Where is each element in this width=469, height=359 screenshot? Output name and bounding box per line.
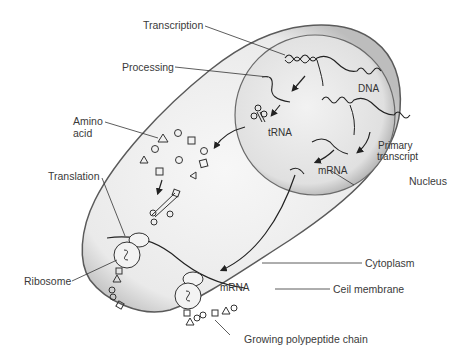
- label-cell-membrane: Ceil membrane: [333, 283, 404, 295]
- label-primary-transcript-line2: transcript: [377, 151, 418, 163]
- label-amino-acid-line1: Amino: [73, 115, 103, 127]
- label-transcription: Transcription: [143, 19, 203, 31]
- label-growing-polypeptide-chain: Growing polypeptide chain: [244, 333, 368, 345]
- label-cytoplasm: Cytoplasm: [365, 257, 415, 269]
- label-ribosome: Ribosome: [24, 275, 71, 287]
- label-mrna-cytoplasm: mRNA: [220, 282, 249, 294]
- label-dna: DNA: [358, 83, 379, 95]
- label-trna: tRNA: [268, 127, 292, 139]
- label-mrna-nucleus: mRNA: [318, 165, 347, 177]
- protein-synthesis-diagram: Transcription Processing Amino acid Tran…: [0, 0, 469, 359]
- label-processing: Processing: [122, 61, 174, 73]
- label-nucleus: Nucleus: [409, 175, 447, 187]
- label-translation: Translation: [48, 170, 100, 182]
- label-amino-acid-line2: acid: [73, 127, 92, 139]
